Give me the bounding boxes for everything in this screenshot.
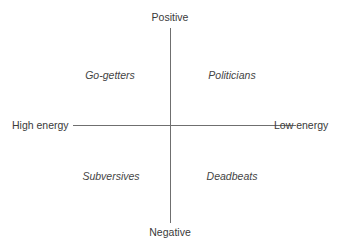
quadrant-label-go-getters: Go-getters (85, 69, 135, 81)
quadrant-label-subversives: Subversives (82, 170, 139, 182)
quadrant-label-deadbeats: Deadbeats (207, 170, 258, 182)
axis-label-negative: Negative (149, 226, 190, 238)
quadrant-label-politicians: Politicians (208, 69, 255, 81)
axis-label-low-energy: Low energy (274, 119, 328, 131)
axis-label-positive: Positive (152, 11, 189, 23)
axis-label-high-energy: High energy (12, 119, 69, 131)
horizontal-axis-line (73, 125, 296, 126)
